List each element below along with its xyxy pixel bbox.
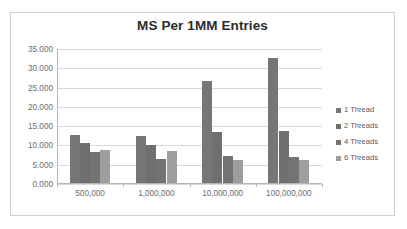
y-axis-tick-label: 5.000 [33,160,54,169]
x-axis-tick-mark [322,184,323,187]
legend-swatch-icon [336,156,341,161]
bar [100,150,110,183]
bar [70,135,80,183]
bar-group [136,49,177,183]
legend-item[interactable]: 2 Threads [336,121,394,131]
bar-group [268,49,309,183]
bar [289,157,299,183]
x-axis-tick-label: 500,000 [75,189,105,198]
chart-frame: MS Per 1MM Entries 0.0005.00010.00015.00… [10,12,395,216]
chart-title: MS Per 1MM Entries [11,18,394,33]
x-axis-tick-mark [256,184,257,187]
y-axis-tick-label: 35.000 [28,45,53,54]
legend-swatch-icon [336,124,341,129]
bar [80,143,90,183]
bar [167,151,177,183]
legend-label: 4 Threads [344,138,378,146]
bar [202,81,212,183]
y-axis-tick-label: 30.000 [28,64,53,73]
legend-item[interactable]: 4 Threads [336,137,394,147]
y-axis-tick-label: 25.000 [28,83,53,92]
y-axis-tick-label: 20.000 [28,102,53,111]
bar [299,160,309,183]
x-axis-tick-mark [57,184,58,187]
x-axis-tick-mark [190,184,191,187]
bar [268,58,278,183]
legend-item[interactable]: 6 Threads [336,153,394,163]
x-axis-tick-label: 10,000,000 [202,189,243,198]
x-axis-tick-mark [123,184,124,187]
bar [279,131,289,183]
y-axis-tick-label: 0.000 [33,180,54,189]
bar [212,132,222,183]
bar [146,145,156,183]
legend-swatch-icon [336,140,341,145]
plot-area [57,49,322,184]
legend-item[interactable]: 1 Thread [336,105,394,115]
bar [156,159,166,183]
legend-label: 6 Threads [344,154,378,162]
bar-group [70,49,111,183]
legend-label: 1 Thread [344,106,374,114]
bar [90,152,100,183]
bars-layer [57,49,322,184]
x-axis-tick-label: 100,000,000 [266,189,312,198]
legend-swatch-icon [336,108,341,113]
bar-group [202,49,243,183]
x-axis-tick-label: 1,000,000 [138,189,174,198]
legend-label: 2 Threads [344,122,378,130]
bar [233,160,243,183]
y-axis-tick-label: 10.000 [28,141,53,150]
x-axis-tick-labels: 500,0001,000,00010,000,000100,000,000 [57,189,322,203]
bar [223,156,233,183]
y-axis-tick-label: 15.000 [28,122,53,131]
x-axis-tick-marks [57,184,322,188]
bar [136,136,146,183]
chart-legend: 1 Thread2 Threads4 Threads6 Threads [336,105,394,169]
y-axis-tick-labels: 0.0005.00010.00015.00020.00025.00030.000… [17,49,53,184]
